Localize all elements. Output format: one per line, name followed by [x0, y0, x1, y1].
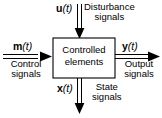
controlled-elements-label: Controlled elements: [53, 44, 115, 67]
control-symbol: m: [13, 40, 22, 52]
control-caption: Control signals: [4, 59, 48, 78]
output-caption: Output signals: [118, 59, 160, 78]
block-diagram: Controlled elements u(t) Disturbance sig…: [0, 0, 162, 118]
block-label-line2: elements: [65, 56, 104, 67]
disturbance-arrow: [75, 4, 85, 39]
control-symbol-label: m(t): [13, 41, 32, 52]
control-argument: (t): [22, 40, 32, 52]
control-caption-line2: signals: [4, 69, 48, 79]
state-arrow: [75, 78, 85, 114]
output-argument: (t): [128, 40, 138, 52]
state-caption: State signals: [92, 82, 122, 101]
state-argument: (t): [63, 82, 73, 94]
disturbance-caption-line2: signals: [84, 12, 135, 22]
block-label-line1: Controlled: [62, 44, 105, 55]
output-symbol-label: y(t): [122, 41, 138, 52]
state-symbol-label: x(t): [57, 83, 73, 94]
state-caption-line2: signals: [92, 92, 122, 102]
output-caption-line2: signals: [118, 69, 160, 79]
disturbance-symbol-label: u(t): [56, 3, 72, 14]
disturbance-caption: Disturbance signals: [84, 2, 135, 21]
disturbance-argument: (t): [62, 2, 72, 14]
